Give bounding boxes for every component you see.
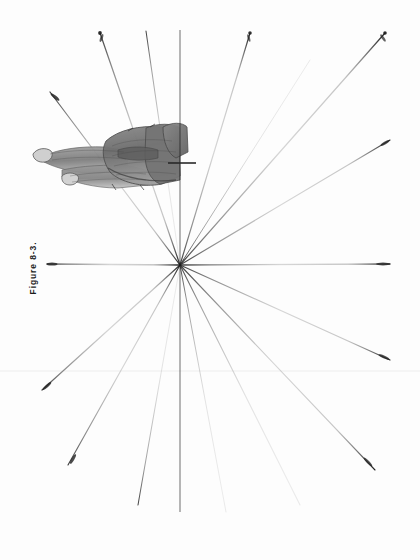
perspective-ray (42, 265, 180, 391)
ray-tip-smudge (363, 457, 373, 468)
figure-arm (118, 147, 158, 160)
scanned-page: Figure 8-3. (0, 0, 420, 560)
ray-tip-smudge (47, 262, 58, 265)
perspective-ray (180, 139, 390, 265)
perspective-ray (180, 265, 226, 512)
ray-tip-smudge (376, 263, 390, 266)
perspective-ray (180, 31, 387, 265)
perspective-ray (180, 265, 390, 361)
perspective-ray (180, 60, 310, 265)
perspective-ray (47, 262, 181, 265)
ray-tip (383, 31, 387, 35)
perspective-ray (180, 265, 300, 505)
perspective-ray (68, 265, 180, 465)
perspective-ray (180, 31, 252, 265)
ray-tip-smudge (378, 353, 390, 361)
ray-tip (248, 31, 252, 35)
perspective-ray (180, 263, 390, 266)
ray-tip-smudge (50, 92, 60, 101)
reclining-figure (33, 123, 188, 190)
central-vertical-line (168, 30, 196, 512)
ray-tip-smudge (42, 381, 52, 391)
ray-tip-smudge (380, 139, 390, 146)
figure-caption: Figure 8-3. (28, 242, 38, 295)
ray-tip (98, 31, 102, 35)
perspective-ray (138, 265, 180, 505)
perspective-ray-group (42, 31, 390, 512)
figure-foot-upper (33, 149, 52, 163)
perspective-ray (180, 265, 375, 470)
perspective-drawing (0, 0, 420, 560)
